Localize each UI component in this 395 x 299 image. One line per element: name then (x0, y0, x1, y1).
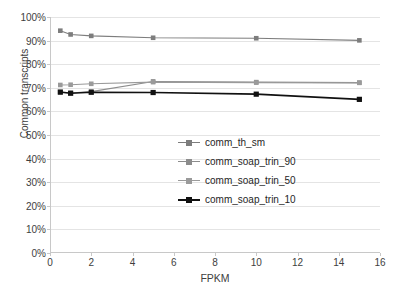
data-point-marker (254, 80, 259, 85)
x-tick-mark (174, 253, 175, 256)
data-point-marker (151, 80, 156, 85)
legend-item[interactable]: comm_soap_trin_90 (178, 152, 296, 171)
series-line (60, 31, 359, 41)
y-tick-label: 60% (4, 106, 46, 117)
chart-container: Common transcripts 0%10%20%30%40%50%60%7… (0, 0, 395, 299)
data-point-marker (58, 83, 63, 88)
legend-label: comm_soap_trin_90 (205, 156, 296, 167)
y-tick-label: 100% (4, 12, 46, 23)
data-point-marker (89, 34, 94, 39)
legend-marker-icon (178, 176, 200, 186)
data-point-marker (151, 90, 156, 95)
data-point-marker (68, 82, 73, 87)
y-tick-label: 40% (4, 153, 46, 164)
legend-item[interactable]: comm_soap_trin_50 (178, 171, 296, 190)
y-tick-label: 20% (4, 200, 46, 211)
x-tick-mark (256, 253, 257, 256)
legend-label: comm_soap_trin_50 (205, 175, 296, 186)
data-point-marker (254, 92, 259, 97)
x-tick-label: 10 (242, 257, 270, 268)
data-point-marker (357, 81, 362, 86)
data-point-marker (151, 35, 156, 40)
x-tick-mark (215, 253, 216, 256)
data-point-marker (58, 89, 63, 94)
data-point-marker (68, 91, 73, 96)
x-tick-label: 4 (119, 257, 147, 268)
data-point-marker (89, 90, 94, 95)
series-line (60, 92, 359, 99)
x-tick-mark (50, 253, 51, 256)
data-point-marker (254, 36, 259, 41)
x-axis-title: FPKM (50, 272, 380, 284)
x-tick-mark (91, 253, 92, 256)
x-tick-mark (133, 253, 134, 256)
x-tick-label: 16 (366, 257, 394, 268)
data-series (58, 89, 362, 102)
x-tick-mark (298, 253, 299, 256)
legend-marker-icon (178, 138, 200, 148)
y-tick-label: 90% (4, 35, 46, 46)
x-tick-label: 14 (325, 257, 353, 268)
y-tick-label: 80% (4, 59, 46, 70)
data-series (58, 80, 362, 87)
y-tick-label: 50% (4, 130, 46, 141)
x-tick-label: 2 (77, 257, 105, 268)
data-point-marker (357, 97, 362, 102)
x-tick-label: 0 (36, 257, 64, 268)
x-tick-label: 8 (201, 257, 229, 268)
legend-marker-icon (178, 195, 200, 205)
legend-label: comm_th_sm (205, 137, 265, 148)
series-line (60, 82, 359, 85)
x-tick-label: 6 (160, 257, 188, 268)
x-tick-label: 12 (284, 257, 312, 268)
legend-marker-icon (178, 157, 200, 167)
chart-legend: comm_th_smcomm_soap_trin_90comm_soap_tri… (178, 133, 296, 209)
legend-item[interactable]: comm_th_sm (178, 133, 296, 152)
x-tick-mark (339, 253, 340, 256)
y-tick-label: 30% (4, 177, 46, 188)
y-tick-label: 70% (4, 82, 46, 93)
legend-item[interactable]: comm_soap_trin_10 (178, 190, 296, 209)
data-point-marker (68, 32, 73, 37)
x-tick-mark (380, 253, 381, 256)
data-point-marker (89, 81, 94, 86)
data-point-marker (357, 38, 362, 43)
data-series (58, 28, 362, 42)
y-tick-label: 10% (4, 224, 46, 235)
legend-label: comm_soap_trin_10 (205, 194, 296, 205)
data-point-marker (58, 28, 63, 33)
